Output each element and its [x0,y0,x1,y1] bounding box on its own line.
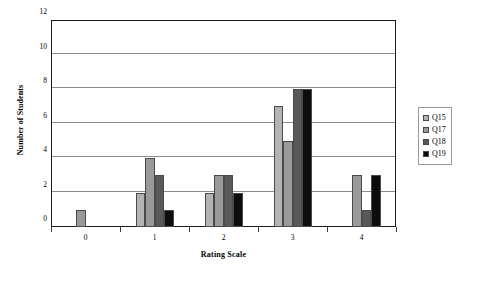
bar-Q17-2 [214,175,224,227]
bar-Q17-4 [352,175,362,227]
bar-Q18-2 [224,175,234,227]
bar-group [343,20,381,227]
x-axis-tick-labels: 01234 [51,233,396,245]
bar-Q17-3 [283,141,293,227]
y-axis-tick-labels: 024681012 [28,20,47,227]
bar-Q18-3 [293,89,303,227]
x-axis-tick-label: 2 [204,233,244,243]
x-axis-tick [396,227,397,232]
y-axis-tick-label: 10 [28,43,47,51]
bar-Q15-3 [274,106,284,227]
legend-label: Q18 [432,136,446,148]
x-axis-tick [51,227,52,232]
bar-Q19-2 [233,193,243,228]
bars-layer [51,20,396,227]
bar-group [205,20,243,227]
bar-Q19-3 [302,89,312,227]
x-axis-tick [258,227,259,232]
y-axis-tick-label: 8 [28,77,47,85]
x-axis-tick [189,227,190,232]
x-axis-tick-label: 3 [273,233,313,243]
legend-item-Q18: Q18 [423,136,446,148]
legend-swatch-icon [423,115,429,121]
bar-group [67,20,105,227]
bar-chart: Number of Students 024681012 01234 Ratin… [0,0,486,283]
x-axis-tick [327,227,328,232]
bar-Q19-1 [164,210,174,227]
bar-group [136,20,174,227]
legend-item-Q15: Q15 [423,112,446,124]
bar-Q18-4 [362,210,372,227]
x-axis-tick-label: 1 [135,233,175,243]
legend: Q15Q17Q18Q19 [418,107,452,165]
y-axis-tick-label: 2 [28,181,47,189]
bar-Q17-1 [145,158,155,227]
legend-swatch-icon [423,139,429,145]
x-axis-title: Rating Scale [51,250,396,259]
y-axis-tick-label: 0 [28,215,47,223]
bar-Q15-1 [136,193,146,228]
legend-item-Q17: Q17 [423,124,446,136]
x-axis-tick-label: 4 [342,233,382,243]
bar-Q17-0 [76,210,86,227]
bar-Q19-4 [371,175,381,227]
legend-swatch-icon [423,127,429,133]
legend-swatch-icon [423,151,429,157]
legend-item-Q19: Q19 [423,148,446,160]
x-axis-tick-label: 0 [66,233,106,243]
legend-label: Q15 [432,112,446,124]
x-axis-tick [120,227,121,232]
y-axis-title: Number of Students [14,60,28,180]
legend-label: Q19 [432,148,446,160]
y-axis-tick-label: 6 [28,112,47,120]
legend-label: Q17 [432,124,446,136]
bar-Q18-1 [155,175,165,227]
y-axis-tick-label: 4 [28,146,47,154]
bar-group [274,20,312,227]
bar-Q15-2 [205,193,215,228]
y-axis-tick-label: 12 [28,8,47,16]
